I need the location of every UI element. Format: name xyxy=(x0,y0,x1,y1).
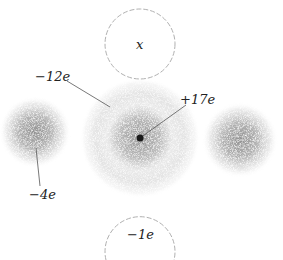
outer-shell-label: −12e xyxy=(35,70,70,83)
top-circle-label: x xyxy=(136,38,143,51)
left-cloud-label: −4e xyxy=(29,188,56,201)
bottom-circle-label-text: −1e xyxy=(127,227,154,242)
left-charge-cloud xyxy=(0,96,71,168)
outer-shell-label-text: −12e xyxy=(35,69,70,84)
nucleus-dot xyxy=(137,135,144,142)
top-circle-label-text: x xyxy=(136,37,143,52)
nucleus-label-text: +17e xyxy=(180,92,215,107)
charge-distribution-diagram: x −12e +17e −4e −1e xyxy=(0,0,283,260)
left-cloud-label-text: −4e xyxy=(29,187,56,202)
bottom-circle-label: −1e xyxy=(127,228,154,241)
right-charge-cloud xyxy=(202,102,278,178)
nucleus-label: +17e xyxy=(180,93,215,106)
